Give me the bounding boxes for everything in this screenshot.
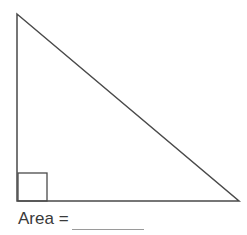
area-answer-blank[interactable] [72, 229, 144, 230]
area-label: Area = [18, 209, 69, 229]
triangle [17, 14, 239, 201]
right-angle-marker [18, 173, 47, 201]
right-triangle-figure [0, 0, 247, 235]
